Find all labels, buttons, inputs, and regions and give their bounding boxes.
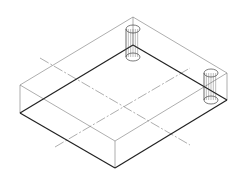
cylinders — [126, 25, 218, 104]
centerline-1 — [40, 58, 190, 145]
cylinder-right — [204, 69, 218, 104]
top-edge-left-back — [20, 17, 133, 85]
bottom-edge-front-right — [115, 100, 227, 168]
hidden-and-thin-edges — [20, 17, 227, 168]
top-edge-right-front — [115, 73, 227, 141]
bottom-edge-left-back — [20, 45, 133, 113]
centerlines — [40, 58, 190, 147]
isometric-box-drawing — [0, 0, 243, 183]
bottom-edge-left-front — [20, 113, 115, 168]
bottom-edge-back-right — [133, 45, 227, 100]
top-edge-back-right — [133, 17, 227, 73]
cylinder-left — [126, 25, 140, 61]
